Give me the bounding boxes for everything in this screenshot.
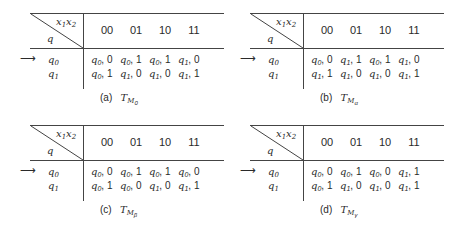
output-value: 0 bbox=[385, 166, 391, 177]
transition-cell: q1, 1 bbox=[178, 180, 199, 192]
output-value: 1 bbox=[165, 166, 171, 177]
column-header: 11 bbox=[400, 136, 428, 148]
table-caption: (c) TMβ bbox=[100, 204, 137, 218]
table-caption: (b) TMα bbox=[320, 92, 358, 106]
start-state-arrow-icon: ⟶ bbox=[240, 52, 256, 65]
caption-subsubscript: α bbox=[354, 100, 357, 106]
caption-subscript: Mα bbox=[347, 97, 358, 104]
row-state-label: q0 bbox=[48, 54, 59, 67]
state-subscript: 1 bbox=[54, 73, 58, 81]
transition-cell: q1, 0 bbox=[340, 68, 361, 80]
transition-cell: q0, 1 bbox=[149, 166, 170, 178]
x2-subscript: 2 bbox=[72, 21, 76, 29]
output-value: 1 bbox=[414, 180, 420, 191]
output-value: 0 bbox=[385, 68, 391, 79]
header-input-label: x1x2 bbox=[276, 128, 296, 141]
output-value: 0 bbox=[107, 54, 113, 65]
output-value: 0 bbox=[107, 166, 113, 177]
transition-cell: q1, 0 bbox=[369, 68, 390, 80]
transition-cell: q0, 0 bbox=[91, 54, 112, 66]
state-subscript: 1 bbox=[274, 73, 278, 81]
start-state-arrow-icon: ⟶ bbox=[20, 164, 36, 177]
x2-subscript: 2 bbox=[292, 133, 296, 141]
header-input-label: x1x2 bbox=[56, 16, 76, 29]
column-header: 01 bbox=[342, 136, 370, 148]
caption-spacer bbox=[332, 92, 340, 103]
output-value: 1 bbox=[165, 54, 171, 65]
column-header: 11 bbox=[400, 24, 428, 36]
caption-spacer bbox=[112, 92, 120, 103]
state-subscript: 1 bbox=[274, 185, 278, 193]
transition-cell: q0, 1 bbox=[91, 68, 112, 80]
column-header: 10 bbox=[151, 24, 179, 36]
row-state-label: q1 bbox=[48, 68, 59, 81]
column-header: 11 bbox=[180, 24, 208, 36]
output-value: 0 bbox=[194, 54, 200, 65]
column-header: 10 bbox=[371, 24, 399, 36]
transition-cell: q0, 0 bbox=[311, 54, 332, 66]
transition-table: x1x2q00011011⟶q0q0, 0q1, 1q0, 1q1, 0q1q1… bbox=[220, 0, 445, 110]
caption-subsubscript: β bbox=[134, 212, 137, 218]
output-value: 0 bbox=[165, 180, 171, 191]
transition-cell: q1, 0 bbox=[398, 54, 419, 66]
column-header: 10 bbox=[151, 136, 179, 148]
caption-letter: (b) bbox=[320, 92, 332, 103]
output-value: 0 bbox=[414, 54, 420, 65]
transition-cell: q1, 1 bbox=[178, 68, 199, 80]
row-state-label: q1 bbox=[268, 68, 279, 81]
table-caption: (d) TMγ bbox=[320, 204, 357, 218]
output-value: 1 bbox=[414, 68, 420, 79]
transition-cell: q1, 1 bbox=[311, 68, 332, 80]
table-caption: (a) TM0 bbox=[100, 92, 138, 106]
header-state-label: q bbox=[267, 33, 273, 44]
output-value: 1 bbox=[136, 54, 142, 65]
transition-cell: q0, 0 bbox=[91, 166, 112, 178]
header-state-label: q bbox=[267, 145, 273, 156]
start-state-arrow-icon: ⟶ bbox=[20, 52, 36, 65]
output-value: 1 bbox=[414, 166, 420, 177]
output-value: 1 bbox=[385, 54, 391, 65]
output-value: 1 bbox=[356, 166, 362, 177]
transition-cell: q0, 1 bbox=[120, 166, 141, 178]
state-subscript: 0 bbox=[274, 171, 278, 179]
output-value: 1 bbox=[107, 180, 113, 191]
transition-cell: q1, 1 bbox=[398, 68, 419, 80]
transition-table: x1x2q00011011⟶q0q0, 0q0, 1q0, 1q0, 0q1q0… bbox=[0, 112, 225, 222]
column-header: 01 bbox=[342, 24, 370, 36]
row-state-label: q0 bbox=[268, 54, 279, 67]
header-input-label: x1x2 bbox=[56, 128, 76, 141]
column-header: 00 bbox=[313, 136, 341, 148]
caption-spacer bbox=[332, 204, 340, 215]
output-value: 0 bbox=[356, 180, 362, 191]
header-state-label: q bbox=[47, 33, 53, 44]
column-header: 00 bbox=[313, 24, 341, 36]
output-value: 0 bbox=[385, 180, 391, 191]
transition-cell: q1, 1 bbox=[398, 180, 419, 192]
row-state-label: q0 bbox=[48, 166, 59, 179]
transition-cell: q0, 1 bbox=[340, 166, 361, 178]
output-value: 0 bbox=[356, 68, 362, 79]
caption-letter: (a) bbox=[100, 92, 112, 103]
transition-cell: q0, 0 bbox=[178, 166, 199, 178]
caption-subscript: Mγ bbox=[347, 209, 357, 216]
output-value: 1 bbox=[194, 180, 200, 191]
caption-subscript: Mβ bbox=[127, 209, 138, 216]
caption-subscript: M0 bbox=[127, 97, 138, 104]
start-state-arrow-icon: ⟶ bbox=[240, 164, 256, 177]
caption-letter: (d) bbox=[320, 204, 332, 215]
x2-subscript: 2 bbox=[292, 21, 296, 29]
output-value: 0 bbox=[136, 180, 142, 191]
row-state-label: q1 bbox=[268, 180, 279, 193]
transition-cell: q0, 1 bbox=[311, 180, 332, 192]
column-header: 00 bbox=[93, 136, 121, 148]
column-header: 01 bbox=[122, 24, 150, 36]
output-value: 1 bbox=[356, 54, 362, 65]
output-value: 1 bbox=[194, 68, 200, 79]
transition-cell: q1, 0 bbox=[178, 54, 199, 66]
header-state-label: q bbox=[47, 145, 53, 156]
transition-cell: q1, 0 bbox=[340, 180, 361, 192]
transition-cell: q1, 1 bbox=[340, 54, 361, 66]
output-value: 1 bbox=[327, 180, 333, 191]
transition-cell: q1, 1 bbox=[398, 166, 419, 178]
state-subscript: 0 bbox=[54, 59, 58, 67]
